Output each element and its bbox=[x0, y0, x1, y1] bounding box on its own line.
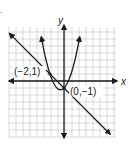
line-curve bbox=[9, 33, 110, 134]
problem-marker: . bbox=[0, 6, 2, 15]
point-label-2: (0,−1) bbox=[70, 86, 96, 97]
coordinate-graph: . x y (−2,1) (0,−1) bbox=[0, 0, 136, 147]
intersection-point-2 bbox=[62, 86, 65, 89]
intersection-point-1 bbox=[48, 72, 51, 75]
y-axis-label: y bbox=[57, 15, 64, 26]
parabola-curve bbox=[41, 37, 80, 90]
x-axis-label: x bbox=[120, 76, 127, 87]
grid bbox=[9, 27, 116, 137]
point-label-1: (−2,1) bbox=[14, 66, 40, 77]
